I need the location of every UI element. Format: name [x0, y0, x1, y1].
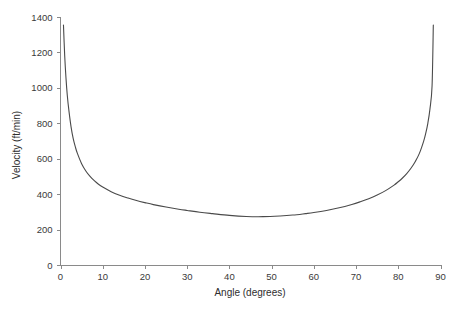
- x-tick-label: 20: [140, 271, 151, 282]
- x-axis-title: Angle (degrees): [214, 287, 285, 298]
- figure-background: [0, 0, 461, 310]
- x-tick-label: 10: [97, 271, 108, 282]
- y-tick-label: 1000: [31, 82, 52, 93]
- chart-figure: 0200400600800100012001400 01020304050607…: [0, 0, 461, 310]
- x-tick-label: 30: [182, 271, 193, 282]
- x-tick-label: 0: [58, 271, 63, 282]
- y-tick-label: 1200: [31, 47, 52, 58]
- x-tick-label: 60: [309, 271, 320, 282]
- x-tick-label: 70: [351, 271, 362, 282]
- x-tick-label: 90: [435, 271, 446, 282]
- y-tick-label: 200: [37, 224, 53, 235]
- x-tick-label: 50: [266, 271, 277, 282]
- y-tick-label: 1400: [31, 12, 52, 23]
- x-tick-label: 40: [224, 271, 235, 282]
- x-tick-label: 80: [393, 271, 404, 282]
- y-tick-label: 800: [37, 118, 53, 129]
- y-axis-title: Velocity (ft/min): [11, 111, 22, 179]
- y-tick-label: 600: [37, 153, 53, 164]
- y-tick-label: 400: [37, 189, 53, 200]
- y-tick-label: 0: [47, 260, 52, 271]
- velocity-angle-line-chart: 0200400600800100012001400 01020304050607…: [0, 0, 461, 310]
